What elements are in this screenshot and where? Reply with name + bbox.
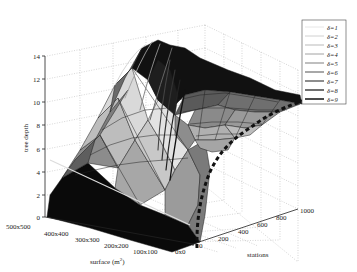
z-tick: 2 <box>37 192 41 200</box>
x-tick: 400x400 <box>44 230 69 238</box>
z-axis: 14 12 10 8 6 4 2 0 tree depth <box>22 53 45 222</box>
svg-text:δ=8: δ=8 <box>327 87 338 94</box>
svg-text:δ=2: δ=2 <box>327 33 338 40</box>
x-tick: 500x500 <box>6 223 31 231</box>
y-tick: 1000 <box>300 207 315 215</box>
z-tick: 12 <box>33 76 41 84</box>
svg-text:δ=9: δ=9 <box>327 96 338 103</box>
x-tick: 200x200 <box>104 242 129 250</box>
svg-text:δ=7: δ=7 <box>327 78 338 85</box>
svg-text:δ=4: δ=4 <box>327 51 338 58</box>
y-tick: 200 <box>218 235 229 243</box>
x-axis-label: surface (m2) <box>90 257 125 266</box>
x-tick: 300x300 <box>75 236 100 244</box>
y-tick: 400 <box>238 228 249 236</box>
y-tick: 600 <box>257 221 268 229</box>
z-tick: 10 <box>33 99 41 107</box>
svg-text:δ=1: δ=1 <box>327 24 338 31</box>
x-tick: 0x0 <box>175 248 186 256</box>
z-tick: 8 <box>37 122 41 130</box>
y-tick: 800 <box>276 214 287 222</box>
x-tick: 100x100 <box>133 248 158 256</box>
y-tick: 0 <box>199 242 203 250</box>
legend: δ=1 δ=2 δ=3 δ=4 δ=5 δ=6 δ=7 δ=8 <box>302 20 346 104</box>
z-tick: 6 <box>37 146 41 154</box>
z-tick: 4 <box>37 169 41 177</box>
y-axis-label: stations <box>247 251 269 259</box>
surface-chart: 14 12 10 8 6 4 2 0 tree depth 500x500 40… <box>0 0 357 272</box>
z-axis-label: tree depth <box>22 124 30 152</box>
svg-text:δ=3: δ=3 <box>327 42 338 49</box>
z-tick: 14 <box>33 53 41 61</box>
svg-text:δ=6: δ=6 <box>327 69 338 76</box>
z-tick: 0 <box>37 214 41 222</box>
y-axis: 0 200 400 600 800 1000 stations <box>193 207 315 259</box>
svg-text:δ=5: δ=5 <box>327 60 338 67</box>
